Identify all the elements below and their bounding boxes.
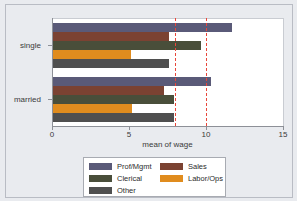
bar-married-clerical: [52, 95, 174, 104]
x-tick-label-15: 15: [279, 130, 288, 139]
bar-married-other: [52, 113, 174, 122]
legend-item-labor-ops: Labor/Ops: [160, 173, 223, 184]
reference-line-10: [206, 18, 207, 126]
y-tick-married: [48, 99, 52, 100]
legend-item-other: Other: [89, 185, 152, 196]
x-axis-title: mean of wage: [52, 140, 283, 149]
y-axis-line: [52, 18, 53, 126]
x-tick-label-10: 10: [202, 130, 211, 139]
reference-line-8: [175, 18, 176, 126]
legend-item-sales: Sales: [160, 161, 223, 172]
legend-column-2: Sales Labor/Ops: [160, 161, 223, 185]
bar-married-labor-ops: [52, 104, 132, 113]
chart-frame: 051015 singlemarried mean of wage Prof/M…: [5, 4, 293, 198]
legend-swatch-other: [89, 187, 112, 194]
legend-swatch-sales: [160, 163, 183, 170]
bar-married-sales: [52, 86, 164, 95]
legend-label-clerical: Clerical: [117, 174, 142, 183]
plot-border-right: [283, 18, 284, 126]
legend-swatch-labor-ops: [160, 175, 183, 182]
y-category-label-married: married: [14, 95, 41, 104]
legend-swatch-prof-mgmt: [89, 163, 112, 170]
legend-label-other: Other: [117, 186, 136, 195]
y-category-label-single: single: [20, 41, 41, 50]
bar-married-prof-mgmt: [52, 77, 211, 86]
legend-item-prof-mgmt: Prof/Mgmt: [89, 161, 152, 172]
legend-swatch-clerical: [89, 175, 112, 182]
legend-label-prof-mgmt: Prof/Mgmt: [117, 162, 152, 171]
bar-single-sales: [52, 32, 169, 41]
chart-legend: Prof/Mgmt Clerical Other Sales: [83, 157, 226, 197]
legend-label-labor-ops: Labor/Ops: [188, 174, 223, 183]
y-tick-single: [48, 45, 52, 46]
bar-single-labor-ops: [52, 50, 131, 59]
bar-single-clerical: [52, 41, 201, 50]
legend-label-sales: Sales: [188, 162, 207, 171]
x-tick-label-5: 5: [127, 130, 131, 139]
x-axis-line: [52, 126, 284, 127]
legend-column-1: Prof/Mgmt Clerical Other: [89, 161, 152, 197]
chart-root: 051015 singlemarried mean of wage Prof/M…: [0, 0, 297, 201]
bar-single-other: [52, 59, 169, 68]
plot-border-top: [52, 18, 283, 19]
legend-item-clerical: Clerical: [89, 173, 152, 184]
x-tick-label-0: 0: [50, 130, 54, 139]
